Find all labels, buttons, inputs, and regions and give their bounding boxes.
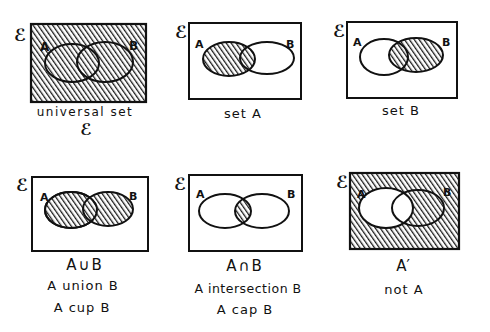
- caption-notation: A′: [396, 257, 410, 275]
- universal-rect: [31, 24, 146, 102]
- set-b-label: B: [129, 39, 138, 53]
- caption-line-3: A cup B: [54, 300, 111, 315]
- caption-line-3: A cap B: [217, 302, 273, 317]
- universal-symbol: ℰ: [16, 175, 28, 195]
- panel-intersection: ℰ A B A∩B A intersection B A cap B: [174, 174, 302, 317]
- universal-symbol: ℰ: [174, 174, 186, 194]
- universal-symbol: ℰ: [175, 22, 187, 42]
- set-a-label: A: [40, 191, 49, 204]
- universal-symbol: ℰ: [14, 25, 26, 45]
- universal-symbol: ℰ: [336, 172, 348, 192]
- panel-set-b: ℰ A B set B: [333, 21, 457, 118]
- venn-diagram-sheet: ℰ A B universal set ℰ ℰ A B set A ℰ A B …: [0, 0, 490, 332]
- caption-line-1: set A: [224, 106, 262, 121]
- caption-line-2: A intersection B: [194, 281, 301, 296]
- caption-notation: A∩B: [226, 257, 264, 275]
- caption-line-2: not A: [384, 282, 423, 297]
- panel-universal-set: ℰ A B universal set ℰ: [14, 24, 146, 139]
- caption-line-1: set B: [382, 103, 420, 118]
- set-a-label: A: [357, 188, 366, 201]
- set-b-label: B: [442, 36, 450, 49]
- caption-line-2: A union B: [47, 278, 118, 293]
- set-b-label: B: [286, 38, 294, 51]
- set-b-label: B: [443, 186, 451, 199]
- set-b-shaded: [389, 38, 443, 72]
- caption-notation: A∪B: [66, 256, 104, 274]
- universal-symbol: ℰ: [333, 21, 345, 41]
- set-a-label: A: [195, 38, 204, 51]
- panel-union: ℰ A B A∪B A union B A cup B: [16, 175, 148, 315]
- caption-line-2: ℰ: [80, 120, 92, 139]
- set-a-label: A: [196, 188, 205, 201]
- set-b-label: B: [287, 188, 295, 201]
- caption-line-1: universal set: [37, 105, 134, 119]
- set-a-label: A: [353, 36, 362, 49]
- set-a-label: A: [40, 40, 50, 54]
- panel-complement: ℰ A B A′ not A: [336, 172, 459, 297]
- panel-set-a: ℰ A B set A: [175, 22, 301, 121]
- set-b-label: B: [129, 190, 137, 203]
